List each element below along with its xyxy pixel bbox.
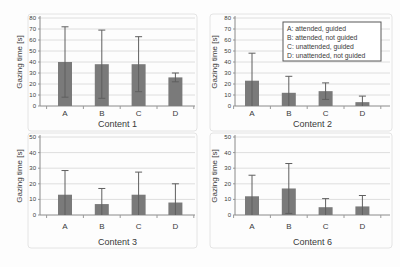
- y-tick-label: 0: [228, 212, 232, 218]
- y-tick-label: 10: [224, 92, 231, 98]
- category-label: D: [173, 109, 179, 118]
- legend-entry: B: attended, not guided: [287, 34, 358, 42]
- y-tick-label: 70: [29, 26, 36, 32]
- y-tick-label: 80: [224, 15, 231, 21]
- y-tick-label: 40: [29, 59, 36, 65]
- y-tick-label: 40: [29, 150, 36, 156]
- y-tick-label: 70: [224, 26, 231, 32]
- y-tick-label: 50: [29, 134, 36, 140]
- y-tick-label: 10: [29, 92, 36, 98]
- y-tick-label: 30: [224, 165, 231, 171]
- ylabel: Gazing time [s]: [15, 149, 24, 202]
- category-label: B: [286, 109, 291, 118]
- category-label: C: [323, 222, 329, 231]
- subplot-content-2: 01020304050607080ABCDContent 2Gazing tim…: [210, 14, 392, 131]
- subplot-content-1: 01020304050607080ABCDContent 1Gazing tim…: [15, 14, 197, 131]
- y-tick-label: 50: [29, 48, 36, 54]
- category-label: A: [249, 109, 255, 118]
- y-tick-label: 50: [224, 134, 231, 140]
- legend-entry: C: unattended, guided: [287, 43, 354, 51]
- category-label: D: [360, 222, 366, 231]
- category-label: A: [249, 222, 255, 231]
- category-label: C: [136, 222, 142, 231]
- legend-entry: D: unattended, not guided: [287, 52, 365, 60]
- xlabel-content-3: Content 3: [98, 237, 137, 247]
- gazing-time-bar-charts: 01020304050607080ABCDContent 1Gazing tim…: [0, 0, 400, 267]
- category-label: B: [99, 109, 104, 118]
- y-tick-label: 10: [29, 196, 36, 202]
- y-tick-label: 0: [33, 212, 37, 218]
- y-tick-label: 50: [224, 48, 231, 54]
- y-tick-label: 60: [29, 37, 36, 43]
- subplot-content-6: 01020304050ABCDContent 6Gazing time [s]: [210, 133, 392, 248]
- subplot-content-3: 01020304050ABCDContent 3Gazing time [s]: [15, 133, 197, 248]
- ylabel: Gazing time [s]: [210, 149, 219, 202]
- category-label: B: [99, 222, 104, 231]
- y-tick-label: 0: [228, 103, 232, 109]
- category-label: B: [286, 222, 291, 231]
- ylabel: Gazing time [s]: [15, 35, 24, 88]
- y-tick-label: 0: [33, 103, 37, 109]
- y-tick-label: 20: [224, 81, 231, 87]
- y-tick-label: 30: [29, 70, 36, 76]
- y-tick-label: 20: [29, 181, 36, 187]
- y-tick-label: 10: [224, 196, 231, 202]
- y-tick-label: 20: [29, 81, 36, 87]
- y-tick-label: 80: [29, 15, 36, 21]
- y-tick-label: 30: [224, 70, 231, 76]
- category-label: A: [62, 222, 68, 231]
- xlabel-content-2: Content 2: [293, 119, 332, 129]
- y-tick-label: 40: [224, 59, 231, 65]
- y-tick-label: 20: [224, 181, 231, 187]
- category-label: A: [62, 109, 68, 118]
- category-label: C: [323, 109, 329, 118]
- y-tick-label: 30: [29, 165, 36, 171]
- legend-entry: A: attended, guided: [287, 25, 346, 33]
- xlabel-content-6: Content 6: [293, 237, 332, 247]
- ylabel: Gazing time [s]: [210, 35, 219, 88]
- y-tick-label: 40: [224, 150, 231, 156]
- figure: 01020304050607080ABCDContent 1Gazing tim…: [0, 0, 400, 267]
- category-label: C: [136, 109, 142, 118]
- category-label: D: [173, 222, 179, 231]
- xlabel-content-1: Content 1: [98, 119, 137, 129]
- category-label: D: [360, 109, 366, 118]
- y-tick-label: 60: [224, 37, 231, 43]
